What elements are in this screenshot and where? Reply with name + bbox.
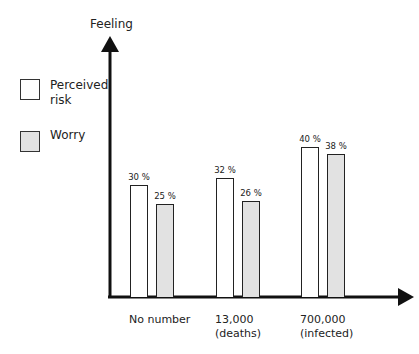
axes bbox=[0, 0, 419, 354]
value-label: 26 % bbox=[236, 188, 266, 198]
bar-worry-no-number bbox=[156, 204, 174, 297]
category-label-13000: 13,000 (deaths) bbox=[215, 313, 261, 341]
bar-worry-700000 bbox=[327, 154, 345, 297]
category-label-700000: 700,000 (infected) bbox=[300, 313, 353, 341]
category-line: 13,000 bbox=[215, 313, 261, 327]
legend-swatch-perceived-risk bbox=[20, 79, 40, 100]
legend-label-line1: Perceived bbox=[50, 78, 108, 93]
value-label: 38 % bbox=[321, 141, 351, 151]
value-label: 30 % bbox=[124, 172, 154, 182]
y-axis-label: Feeling bbox=[90, 17, 133, 31]
legend-label-line2: risk bbox=[50, 93, 108, 108]
category-label-no-number: No number bbox=[129, 313, 190, 327]
legend-swatch-worry bbox=[20, 131, 40, 152]
category-line: (deaths) bbox=[215, 327, 261, 341]
category-line: (infected) bbox=[300, 327, 353, 341]
value-label: 32 % bbox=[210, 165, 240, 175]
legend-label-perceived-risk: Perceived risk bbox=[50, 78, 108, 108]
bar-worry-13000 bbox=[242, 201, 260, 297]
bar-perceived-risk-no-number bbox=[130, 185, 148, 297]
bar-perceived-risk-700000 bbox=[301, 147, 319, 297]
legend-label-worry: Worry bbox=[50, 128, 85, 143]
bar-perceived-risk-13000 bbox=[216, 178, 234, 297]
value-label: 25 % bbox=[150, 191, 180, 201]
category-line: 700,000 bbox=[300, 313, 353, 327]
